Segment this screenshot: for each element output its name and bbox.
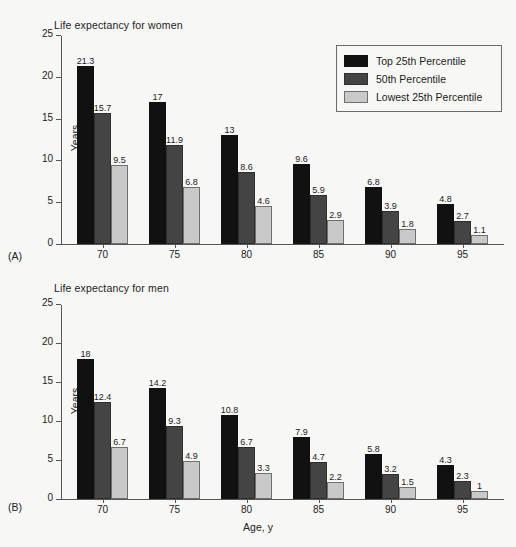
bar-value-label-80-series-1: 6.7 bbox=[240, 437, 253, 447]
bar-75-series-0[interactable]: 14.2 bbox=[149, 388, 166, 499]
y-tick-label-5: 5 bbox=[47, 195, 53, 206]
x-tick-label-80: 80 bbox=[241, 504, 252, 515]
bar-90-series-0[interactable]: 5.8 bbox=[365, 454, 382, 499]
legend-label-50th: 50th Percentile bbox=[376, 73, 446, 85]
bar-value-label-85-series-2: 2.9 bbox=[329, 210, 342, 220]
bar-85-series-1[interactable]: 4.7 bbox=[310, 462, 327, 499]
y-tick-20: 20 bbox=[56, 343, 61, 344]
legend-label-top-25th: Top 25th Percentile bbox=[376, 55, 466, 67]
x-tick-label-70: 70 bbox=[97, 249, 108, 260]
y-tick-label-15: 15 bbox=[42, 375, 53, 386]
bar-90-series-1[interactable]: 3.9 bbox=[382, 211, 399, 244]
bar-value-label-75-series-0: 14.2 bbox=[149, 378, 167, 388]
y-tick-label-0: 0 bbox=[47, 237, 53, 248]
bar-75-series-2[interactable]: 4.9 bbox=[183, 461, 200, 499]
y-tick-label-15: 15 bbox=[42, 112, 53, 123]
bar-80-series-1[interactable]: 8.6 bbox=[238, 172, 255, 244]
bar-90-series-2[interactable]: 1.5 bbox=[399, 487, 416, 499]
bar-80-series-2[interactable]: 3.3 bbox=[255, 473, 272, 499]
bar-90-series-1[interactable]: 3.2 bbox=[382, 474, 399, 499]
bar-group-90: 5.83.21.590 bbox=[365, 304, 416, 499]
bar-value-label-95-series-1: 2.3 bbox=[456, 471, 469, 481]
y-tick-label-10: 10 bbox=[42, 414, 53, 425]
bar-70-series-0[interactable]: 18 bbox=[77, 359, 94, 499]
bar-value-label-80-series-1: 8.6 bbox=[240, 162, 253, 172]
bar-90-series-0[interactable]: 6.8 bbox=[365, 187, 382, 244]
x-tick-70 bbox=[103, 244, 104, 248]
bar-80-series-1[interactable]: 6.7 bbox=[238, 447, 255, 499]
bar-value-label-90-series-2: 1.8 bbox=[401, 219, 414, 229]
bar-95-series-2[interactable]: 1.1 bbox=[471, 235, 488, 244]
bar-75-series-2[interactable]: 6.8 bbox=[183, 187, 200, 244]
bar-70-series-2[interactable]: 6.7 bbox=[111, 447, 128, 499]
bar-85-series-2[interactable]: 2.2 bbox=[327, 482, 344, 499]
bar-value-label-95-series-2: 1.1 bbox=[473, 225, 486, 235]
y-tick-label-10: 10 bbox=[42, 153, 53, 164]
bar-85-series-0[interactable]: 9.6 bbox=[293, 164, 310, 244]
bar-value-label-85-series-1: 4.7 bbox=[312, 452, 325, 462]
bar-95-series-1[interactable]: 2.7 bbox=[454, 221, 471, 244]
legend-swatch-icon-lowest-25th bbox=[344, 91, 368, 103]
panel-b-x-axis bbox=[61, 499, 504, 500]
bar-value-label-70-series-1: 15.7 bbox=[94, 103, 112, 113]
x-tick-75 bbox=[175, 499, 176, 503]
bar-value-label-95-series-0: 4.8 bbox=[439, 194, 452, 204]
bar-value-label-95-series-2: 1 bbox=[477, 481, 482, 491]
bar-95-series-2[interactable]: 1 bbox=[471, 491, 488, 499]
legend: Top 25th Percentile 50th Percentile Lowe… bbox=[336, 45, 502, 112]
bar-85-series-0[interactable]: 7.9 bbox=[293, 437, 310, 499]
bar-value-label-95-series-0: 4.3 bbox=[439, 455, 452, 465]
bar-value-label-70-series-2: 9.5 bbox=[113, 155, 126, 165]
bar-value-label-80-series-2: 4.6 bbox=[257, 196, 270, 206]
panel-b-title: Life expectancy for men bbox=[54, 282, 169, 294]
x-tick-label-95: 95 bbox=[457, 504, 468, 515]
bar-group-95: 4.32.3195 bbox=[437, 304, 488, 499]
bar-90-series-2[interactable]: 1.8 bbox=[399, 229, 416, 244]
bar-75-series-0[interactable]: 17 bbox=[149, 102, 166, 244]
y-tick-10: 10 bbox=[56, 421, 61, 422]
bar-value-label-90-series-2: 1.5 bbox=[401, 477, 414, 487]
bar-value-label-90-series-1: 3.2 bbox=[384, 464, 397, 474]
bar-85-series-2[interactable]: 2.9 bbox=[327, 220, 344, 244]
x-tick-label-85: 85 bbox=[313, 504, 324, 515]
x-tick-label-90: 90 bbox=[385, 504, 396, 515]
bar-value-label-70-series-0: 21.3 bbox=[77, 56, 95, 66]
panel-a-letter: (A) bbox=[8, 250, 22, 262]
x-tick-label-70: 70 bbox=[97, 504, 108, 515]
bar-70-series-2[interactable]: 9.5 bbox=[111, 165, 128, 244]
bar-70-series-0[interactable]: 21.3 bbox=[77, 66, 94, 244]
bar-value-label-90-series-0: 5.8 bbox=[367, 444, 380, 454]
y-tick-label-25: 25 bbox=[42, 297, 53, 308]
bar-95-series-0[interactable]: 4.3 bbox=[437, 465, 454, 499]
legend-row-50th: 50th Percentile bbox=[344, 70, 493, 87]
bar-80-series-0[interactable]: 13 bbox=[221, 135, 238, 244]
x-tick-80 bbox=[247, 499, 248, 503]
y-tick-label-0: 0 bbox=[47, 492, 53, 503]
bar-95-series-1[interactable]: 2.3 bbox=[454, 481, 471, 499]
bar-value-label-80-series-0: 10.8 bbox=[221, 405, 239, 415]
legend-swatch-icon-top-25th bbox=[344, 55, 368, 67]
bar-value-label-75-series-1: 9.3 bbox=[168, 416, 181, 426]
bar-70-series-1[interactable]: 15.7 bbox=[94, 113, 111, 244]
panel-a-x-axis bbox=[61, 244, 504, 245]
figure-life-expectancy: Life expectancy for women (A) Years 0510… bbox=[0, 0, 516, 547]
bar-95-series-0[interactable]: 4.8 bbox=[437, 204, 454, 244]
bar-value-label-75-series-2: 6.8 bbox=[185, 177, 198, 187]
y-tick-0: 0 bbox=[56, 244, 61, 245]
bar-value-label-85-series-0: 7.9 bbox=[295, 427, 308, 437]
bar-group-80: 10.86.73.380 bbox=[221, 304, 272, 499]
x-tick-95 bbox=[463, 244, 464, 248]
bar-85-series-1[interactable]: 5.9 bbox=[310, 195, 327, 244]
panel-a-title: Life expectancy for women bbox=[54, 19, 183, 31]
bar-70-series-1[interactable]: 12.4 bbox=[94, 402, 111, 499]
x-tick-95 bbox=[463, 499, 464, 503]
bar-value-label-90-series-0: 6.8 bbox=[367, 177, 380, 187]
panel-b-y-axis bbox=[61, 305, 62, 500]
bar-75-series-1[interactable]: 9.3 bbox=[166, 426, 183, 499]
bar-80-series-0[interactable]: 10.8 bbox=[221, 415, 238, 499]
x-tick-75 bbox=[175, 244, 176, 248]
bar-75-series-1[interactable]: 11.9 bbox=[166, 145, 183, 244]
x-tick-label-95: 95 bbox=[457, 249, 468, 260]
panel-b-letter: (B) bbox=[8, 501, 22, 513]
bar-80-series-2[interactable]: 4.6 bbox=[255, 206, 272, 244]
